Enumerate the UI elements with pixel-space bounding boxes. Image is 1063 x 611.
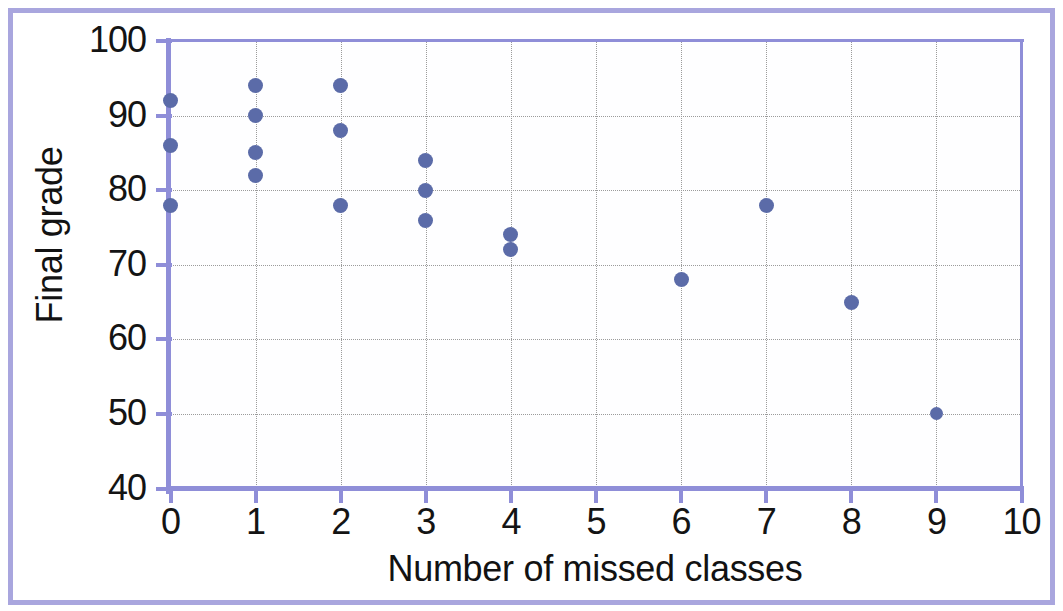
x-axis-tick-label: 7 [736, 503, 796, 541]
data-point [418, 213, 433, 228]
scatter-plot-figure: 405060708090100 012345678910 Final grade… [0, 0, 1063, 611]
data-point [333, 198, 348, 213]
x-axis-tick-label: 3 [396, 503, 456, 541]
x-axis-tick-label: 5 [566, 503, 626, 541]
y-axis-tick-label: 100 [34, 22, 146, 58]
data-point [163, 138, 178, 153]
plot-top-rule [168, 39, 1024, 42]
data-point [418, 183, 433, 198]
x-axis-tick-label: 0 [141, 503, 201, 541]
page-border-left [8, 8, 13, 605]
x-axis-tick-label: 4 [481, 503, 541, 541]
x-axis-tick-label: 2 [311, 503, 371, 541]
plot-area [168, 41, 1022, 489]
y-axis-title: Final grade [30, 125, 70, 345]
data-point [759, 198, 774, 213]
data-point [844, 295, 859, 310]
x-axis-line [166, 486, 1024, 491]
data-point [248, 168, 263, 183]
data-point [163, 198, 178, 213]
x-axis-tick-label: 1 [226, 503, 286, 541]
page-border-bottom [8, 600, 1055, 605]
y-axis-tick-label: 40 [34, 470, 146, 506]
x-axis-tick-label: 6 [651, 503, 711, 541]
plot-right-rule [1020, 39, 1023, 491]
x-axis-title: Number of missed classes [168, 549, 1022, 589]
page-border-top [8, 8, 1055, 13]
x-axis-tick-label: 8 [821, 503, 881, 541]
x-axis-tick-label: 9 [906, 503, 966, 541]
data-point [674, 272, 689, 287]
y-axis-tick-label: 50 [34, 395, 146, 431]
x-axis-tick-label: 10 [992, 503, 1052, 541]
